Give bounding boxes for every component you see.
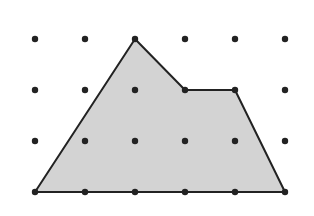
grid-dot	[132, 87, 138, 93]
grid-dot	[82, 36, 88, 42]
grid-dot	[282, 189, 288, 195]
grid-dot	[82, 138, 88, 144]
dot-grid-diagram	[0, 0, 314, 216]
grid-dot	[32, 189, 38, 195]
grid-dot	[32, 138, 38, 144]
grid-dot	[232, 87, 238, 93]
grid-dot	[182, 87, 188, 93]
grid-dot	[232, 36, 238, 42]
grid-dot	[132, 189, 138, 195]
grid-dot	[182, 138, 188, 144]
grid-dot	[282, 138, 288, 144]
grid-dot	[132, 36, 138, 42]
grid-dot	[232, 189, 238, 195]
grid-dot	[282, 87, 288, 93]
grid-dot	[182, 36, 188, 42]
grid-dot	[232, 138, 238, 144]
grid-dot	[82, 189, 88, 195]
grid-dot	[132, 138, 138, 144]
shaded-polygon	[35, 39, 285, 192]
grid-dot	[32, 36, 38, 42]
grid-dot	[182, 189, 188, 195]
grid-dot	[32, 87, 38, 93]
grid-dot	[82, 87, 88, 93]
grid-dot	[282, 36, 288, 42]
